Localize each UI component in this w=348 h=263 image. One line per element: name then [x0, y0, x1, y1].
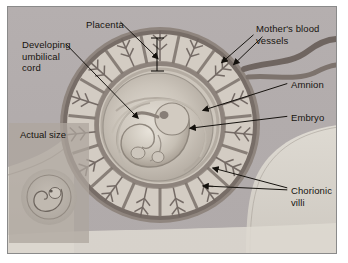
label-amnion: Amnion [291, 79, 324, 91]
actual-size-caption: Actual size [20, 129, 66, 140]
tiny-embryo-illustration [21, 169, 77, 225]
figure-root: Placenta Developing umbilical cord Mothe… [0, 0, 348, 263]
label-mothers-blood-vessels: Mother's blood vessels [256, 23, 319, 46]
label-placenta: Placenta [86, 19, 124, 31]
diagram-frame: Placenta Developing umbilical cord Mothe… [7, 6, 337, 254]
label-embryo: Embryo [291, 112, 324, 124]
label-developing-umbilical-cord: Developing umbilical cord [22, 39, 71, 74]
label-chorionic-villi: Chorionic villi [291, 185, 332, 208]
